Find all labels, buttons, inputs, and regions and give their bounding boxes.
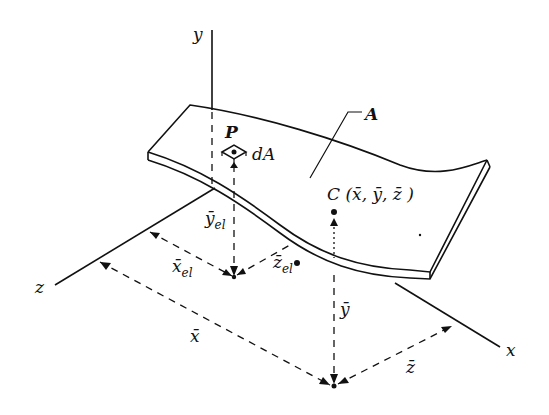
y-axis-label: y xyxy=(192,24,203,44)
z-bar-label: z̄ xyxy=(405,357,416,377)
centroid-label: C (x̄, ȳ, z̄ ) xyxy=(327,184,414,204)
centroid-surface-diagram: y z x A P dA ȳel x̄el z̄el C (x̄, ȳ, z̄ xyxy=(0,0,549,415)
x-el-label: x̄el xyxy=(172,256,193,280)
centroid-base-point xyxy=(332,384,337,389)
x-axis xyxy=(395,283,500,347)
x-bar-label: x̄ xyxy=(190,326,200,346)
z-axis-label: z xyxy=(34,277,45,297)
element-dot xyxy=(294,260,300,266)
y-bar-label: ȳ xyxy=(339,299,350,319)
surface-leader-line xyxy=(310,112,362,178)
element-projection-point xyxy=(232,275,236,279)
x-bar-dimension xyxy=(100,262,330,385)
surface-label: A xyxy=(363,104,378,124)
dA-label: dA xyxy=(252,144,275,164)
speck xyxy=(419,234,421,236)
z-el-label: z̄el xyxy=(272,252,293,276)
point-P-label: P xyxy=(224,122,239,142)
x-axis-label: x xyxy=(506,340,516,360)
y-el-label: ȳel xyxy=(204,208,226,232)
area-element-dA xyxy=(222,145,246,172)
z-bar-dimension xyxy=(338,326,452,384)
surface-plate xyxy=(148,105,490,279)
centroid-point xyxy=(331,209,337,215)
